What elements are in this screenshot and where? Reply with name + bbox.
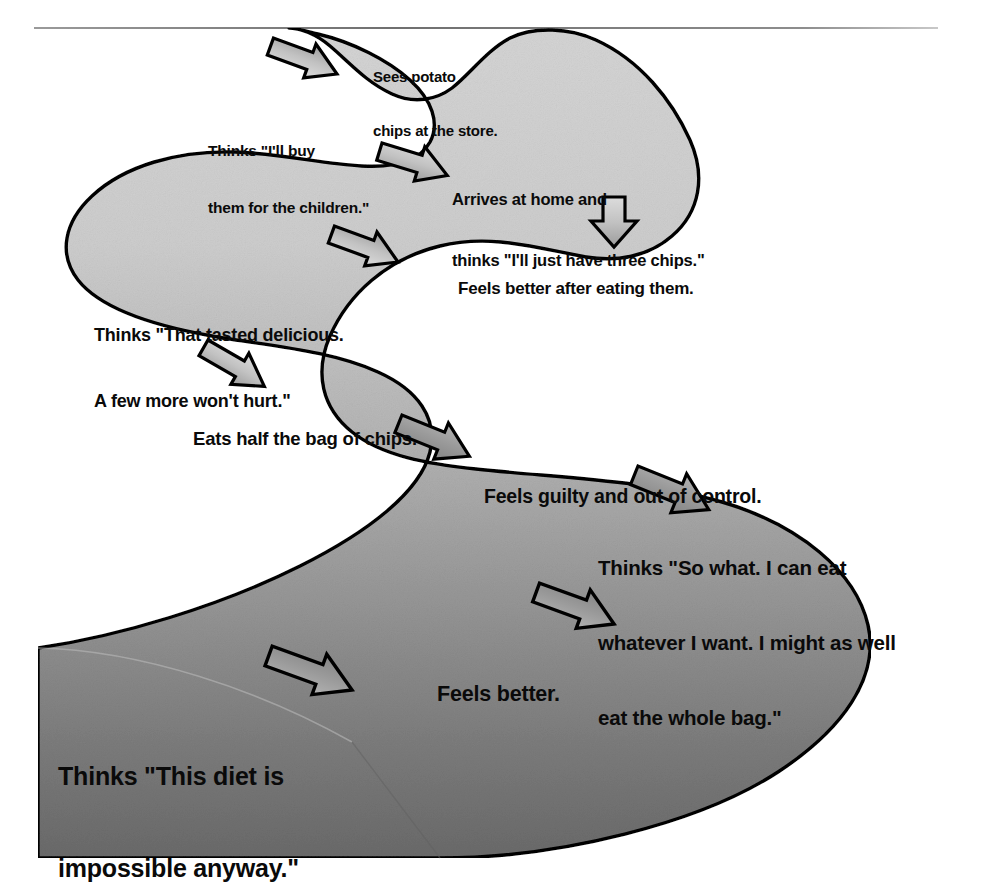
step-line: Feels better. <box>437 681 560 707</box>
step-label-4: Feels better after eating them. <box>458 238 694 342</box>
step-line: Eats half the bag of chips. <box>193 428 417 451</box>
step-label-8: Thinks "So what. I can eat whatever I wa… <box>598 505 896 780</box>
step-label-6: Eats half the bag of chips. <box>193 383 417 496</box>
step-line: whatever I want. I might as well <box>598 630 896 655</box>
step-label-9: Feels better. <box>437 629 560 760</box>
step-line: Feels better after eating them. <box>458 279 694 300</box>
step-label-10: Thinks "This diet is impossible anyway." <box>58 700 299 882</box>
step-line: Thinks "I'll buy <box>208 142 369 161</box>
step-line: Arrives at home and <box>452 189 705 209</box>
diagram-canvas: Sees potato chips at the store. Thinks "… <box>0 0 986 882</box>
step-line: Sees potato <box>373 68 498 86</box>
step-line: impossible anyway." <box>58 853 299 882</box>
step-label-2: Thinks "I'll buy them for the children." <box>208 104 369 255</box>
step-line: eat the whole bag." <box>598 705 896 730</box>
step-line: Thinks "That tasted delicious. <box>94 325 344 347</box>
step-line: Thinks "So what. I can eat <box>598 555 896 580</box>
step-line: chips at the store. <box>373 122 498 140</box>
step-line: Thinks "This diet is <box>58 761 299 792</box>
step-line: them for the children." <box>208 199 369 218</box>
